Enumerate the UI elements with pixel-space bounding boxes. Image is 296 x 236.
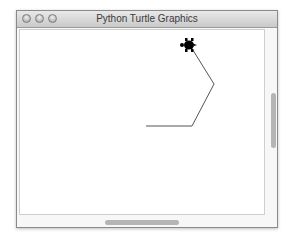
title-bar[interactable]: Python Turtle Graphics: [17, 11, 277, 28]
turtle-path: [146, 47, 214, 126]
horizontal-scroll-thumb[interactable]: [105, 220, 179, 225]
turtle-canvas[interactable]: [19, 29, 265, 215]
turtle-window: Python Turtle Graphics: [16, 10, 278, 228]
vertical-scrollbar[interactable]: [267, 28, 277, 216]
turtle-icon: [180, 38, 197, 52]
window-content: [17, 28, 277, 227]
horizontal-scrollbar[interactable]: [17, 217, 267, 227]
vertical-scroll-thumb[interactable]: [271, 93, 276, 148]
window-title: Python Turtle Graphics: [17, 12, 277, 26]
drawing: [20, 30, 266, 216]
